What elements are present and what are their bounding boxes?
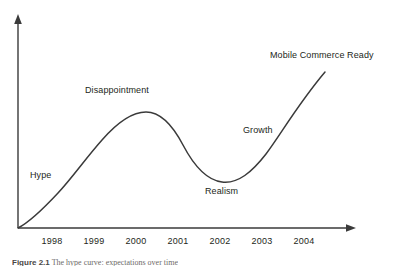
figure-caption-text: The hype curve: expectations over time (52, 258, 178, 266)
x-tick-label-2003: 2003 (252, 236, 273, 246)
x-axis-arrowhead-icon (346, 224, 356, 232)
x-tick-label-2002: 2002 (210, 236, 231, 246)
annotation-mobile-commerce-ready: Mobile Commerce Ready (270, 50, 374, 60)
x-tick-label-1999: 1999 (84, 236, 105, 246)
y-axis-arrowhead-icon (14, 14, 22, 24)
figure-caption-number: Figure 2.1 (12, 258, 50, 266)
figure-caption: Figure 2.1 The hype curve: expectations … (12, 258, 178, 266)
hype-curve-chart (0, 0, 409, 266)
x-tick-label-2004: 2004 (294, 236, 315, 246)
annotation-realism: Realism (205, 186, 238, 196)
x-tick-label-2001: 2001 (168, 236, 189, 246)
annotation-hype: Hype (30, 170, 51, 180)
hype-curve-figure: Hype Disappointment Growth Realism Mobil… (0, 0, 409, 266)
x-tick-label-1998: 1998 (42, 236, 63, 246)
annotation-disappointment: Disappointment (85, 85, 149, 95)
x-tick-label-2000: 2000 (126, 236, 147, 246)
hype-curve-line (18, 72, 325, 228)
annotation-growth: Growth (243, 125, 273, 135)
